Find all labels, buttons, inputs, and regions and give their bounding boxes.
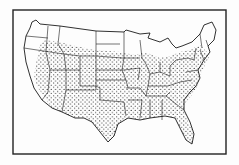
- us-map-svg: [0, 0, 239, 165]
- us-stipple-map-figure: [0, 0, 239, 165]
- stippled-region: [34, 40, 210, 144]
